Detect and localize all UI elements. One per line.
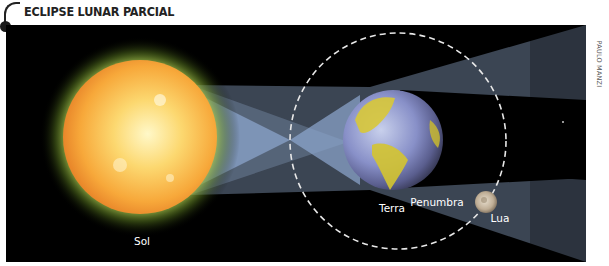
moon-label: Lua [491,212,510,224]
earth-label: Terra [378,202,405,214]
star [562,121,564,123]
sun-label: Sol [134,235,150,247]
title-bar: ECLIPSE LUNAR PARCIAL [0,0,609,24]
penumbra-label: Penumbra [410,196,463,208]
eclipse-diagram: Sol Terra Penumbra Lua [6,25,586,262]
moon [475,191,497,213]
beam-fade [530,25,586,262]
credit-text: PAULO MANZI [595,41,603,88]
earth [343,90,443,190]
sun [40,37,240,237]
image-credit: PAULO MANZI [592,24,606,104]
diagram-title: ECLIPSE LUNAR PARCIAL [24,4,174,19]
